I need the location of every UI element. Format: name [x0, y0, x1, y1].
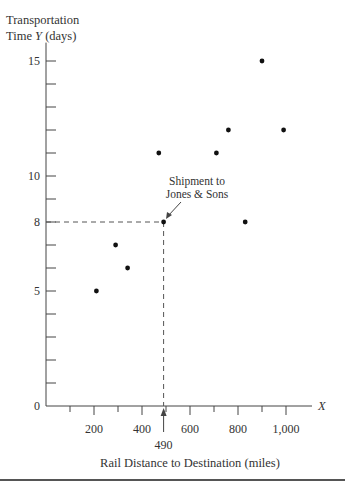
y-tick-label: 10: [28, 169, 40, 183]
x-marker-label: 490: [155, 438, 173, 452]
data-point: [113, 243, 118, 248]
data-point: [125, 266, 130, 271]
x-axis-label: Rail Distance to Destination (miles): [100, 456, 280, 470]
x-tick-label: 200: [85, 422, 103, 436]
y-tick-label: 15: [28, 54, 40, 68]
data-point: [260, 59, 265, 64]
data-point: [156, 151, 161, 156]
y-tick-label: 8: [34, 215, 40, 229]
annotation-label-line2: Jones & Sons: [166, 188, 229, 200]
y-axis-label-line1: Transportation: [6, 13, 80, 27]
bottom-rule: [0, 479, 345, 481]
annotation-label-line1: Shipment to: [169, 175, 225, 188]
x-tick-label: 800: [229, 422, 247, 436]
axes: X0: [34, 43, 327, 413]
data-point: [214, 151, 219, 156]
x-tick-label: 400: [133, 422, 151, 436]
data-point: [226, 128, 231, 133]
y-tick-label: 0: [34, 399, 40, 413]
data-point: [94, 289, 99, 294]
y-axis-label-line2: Time Y (days): [6, 29, 76, 43]
y-tick-label: 5: [34, 284, 40, 298]
scatter-chart: Transportation Time Y (days) X0 58101520…: [0, 0, 345, 487]
x-tick-label: 600: [181, 422, 199, 436]
data-point: [161, 220, 166, 225]
data-point: [281, 128, 286, 133]
x-axis-variable: X: [317, 399, 327, 413]
x-tick-label: 1,000: [273, 422, 300, 436]
highlight-guides: [46, 222, 164, 406]
data-point: [243, 220, 248, 225]
